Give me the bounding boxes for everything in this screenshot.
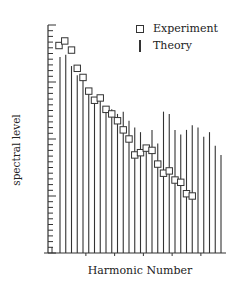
experiment-marker [178, 179, 184, 185]
legend-item-experiment: Experiment [133, 20, 218, 37]
experiment-marker [97, 95, 103, 101]
stem-chart: spectral level Harmonic Number Experimen… [0, 0, 240, 293]
experiment-marker [68, 47, 74, 53]
experiment-marker [189, 193, 195, 199]
y-axis-label-text: spectral level [10, 114, 22, 185]
experiment-marker [155, 161, 161, 167]
legend-label: Theory [153, 37, 192, 54]
experiment-marker [74, 65, 80, 71]
x-axis-label: Harmonic Number [60, 264, 220, 277]
vertical-line-icon [133, 40, 147, 52]
experiment-marker [80, 74, 86, 80]
experiment-marker [86, 88, 92, 94]
experiment-marker [149, 147, 155, 153]
legend: Experiment Theory [133, 20, 218, 54]
experiment-marker [114, 118, 120, 124]
experiment-marker [126, 136, 132, 142]
legend-item-theory: Theory [133, 37, 218, 54]
experiment-marker [109, 111, 115, 117]
legend-label: Experiment [153, 20, 218, 37]
experiment-marker [120, 127, 126, 133]
experiment-marker [166, 168, 172, 174]
experiment-marker [62, 38, 68, 44]
y-axis-label: spectral level [4, 95, 28, 205]
square-icon [133, 25, 147, 33]
